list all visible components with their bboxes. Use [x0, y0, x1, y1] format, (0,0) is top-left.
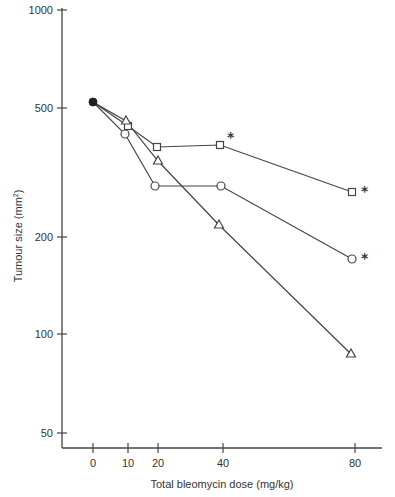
y-tick-1000: 1000 [29, 4, 53, 16]
y-tick-50: 50 [41, 427, 53, 439]
y-tick-500: 500 [35, 102, 53, 114]
y-tick-100: 100 [35, 328, 53, 340]
y-tick-labels: 1000 500 200 100 50 [29, 4, 53, 439]
x-tick-40: 40 [217, 457, 229, 469]
y-axis-title: Tumour size (mm2) [12, 190, 24, 283]
significance-star-circle-80: * [361, 250, 369, 266]
significance-star-square-40: * [227, 129, 235, 145]
x-tick-10: 10 [122, 457, 134, 469]
start-point-marker [89, 98, 97, 106]
x-tick-labels: 0 10 20 40 80 [90, 457, 361, 469]
significance-star-square-80: * [361, 183, 369, 199]
x-tick-80: 80 [349, 457, 361, 469]
x-axis-title: Total bleomycin dose (mg/kg) [150, 478, 293, 490]
x-tick-20: 20 [152, 457, 164, 469]
y-tick-200: 200 [35, 231, 53, 243]
chart: 1000 500 200 100 50 0 10 20 40 80 Total … [0, 0, 395, 497]
x-tick-0: 0 [90, 457, 96, 469]
